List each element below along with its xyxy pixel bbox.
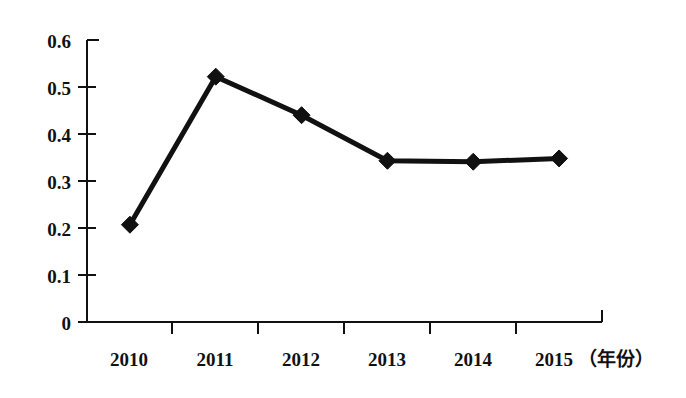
x-tick-label-2010: 2010 — [110, 349, 148, 370]
y-tick-label: 0 — [62, 313, 72, 334]
y-tick-label: 0.6 — [47, 31, 71, 52]
x-tick-label-2015: 2015 — [535, 349, 573, 370]
line-chart: 0.6 0.5 0.4 0.3 0.2 0.1 0 2010 2011 2012… — [0, 0, 686, 398]
chart-background — [0, 0, 686, 398]
y-tick-label: 0.3 — [47, 172, 71, 193]
x-tick-label-2012: 2012 — [282, 349, 320, 370]
y-tick-label: 0.4 — [47, 125, 71, 146]
y-tick-label: 0.2 — [47, 219, 71, 240]
x-tick-label-2013: 2013 — [368, 349, 406, 370]
y-tick-label: 0.5 — [47, 78, 71, 99]
x-tick-label-2011: 2011 — [197, 349, 234, 370]
x-tick-label-2014: 2014 — [454, 349, 493, 370]
x-axis-unit-label: （年份） — [578, 348, 654, 370]
y-tick-label: 0.1 — [47, 266, 71, 287]
chart-canvas: 0.6 0.5 0.4 0.3 0.2 0.1 0 2010 2011 2012… — [0, 0, 686, 398]
